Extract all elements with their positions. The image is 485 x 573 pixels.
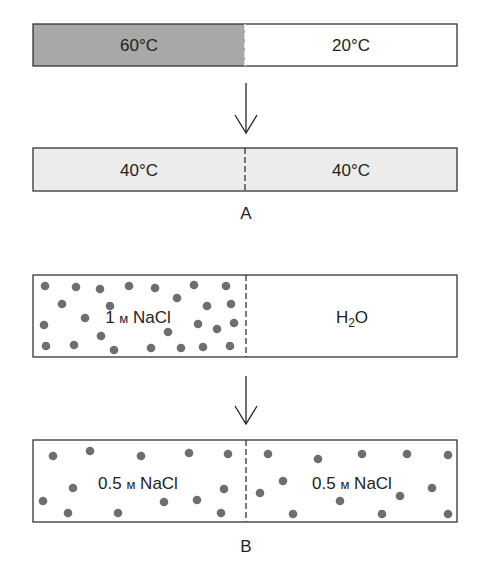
solute-particle — [256, 489, 265, 498]
solute-particle — [185, 449, 194, 458]
temp-left-after: 40°C — [120, 161, 158, 180]
solute-particle — [81, 314, 90, 323]
arrow-down-icon — [235, 83, 257, 133]
solute-particle — [217, 509, 226, 518]
solute-particle — [336, 497, 345, 506]
solute-particle — [279, 477, 288, 486]
solute-particle — [160, 498, 169, 507]
solute-particle — [193, 496, 202, 505]
solute-particle — [199, 343, 208, 352]
concentration-right-after: 0.5 м NaCl — [312, 474, 392, 493]
solute-particle — [39, 497, 48, 506]
solute-particle — [96, 285, 105, 294]
arrow-down-icon — [235, 376, 257, 424]
solute-particle — [72, 283, 81, 292]
temp-left-before: 60°C — [120, 36, 158, 55]
solute-particle — [151, 284, 160, 293]
solute-particle — [147, 344, 156, 353]
temp-right-before: 20°C — [332, 36, 370, 55]
solute-particle — [58, 300, 67, 309]
solute-particle — [64, 509, 73, 518]
concentration-left-before: 1 м NaCl — [105, 308, 171, 327]
solute-particle — [203, 302, 212, 311]
panel-label-a: A — [240, 204, 252, 223]
solute-particle — [177, 344, 186, 353]
solute-particle — [396, 492, 405, 501]
solute-particle — [227, 300, 236, 309]
solute-particle — [42, 342, 51, 351]
solute-particle — [224, 450, 233, 459]
solute-particle — [378, 510, 387, 519]
solute-particle — [444, 510, 453, 519]
container-outline — [33, 440, 457, 522]
solute-particle — [226, 342, 235, 351]
solute-particle — [69, 484, 78, 493]
solute-particle — [220, 485, 229, 494]
solute-particle — [222, 282, 231, 291]
solute-particle — [264, 450, 273, 459]
solute-particle — [190, 281, 199, 290]
solute-particle — [110, 346, 119, 355]
solute-particle — [164, 328, 173, 337]
solute-particle — [314, 455, 323, 464]
panel-a-before: 60°C 20°C — [33, 24, 457, 66]
solute-particle — [173, 294, 182, 303]
diffusion-diagram: 60°C 20°C 40°C 40°C A 1 м NaCl H2O 0.5 м… — [0, 0, 485, 573]
solute-particle — [230, 319, 239, 328]
solute-particle — [403, 450, 412, 459]
solute-particle — [114, 509, 123, 518]
temp-right-after: 40°C — [332, 161, 370, 180]
panel-b-after: 0.5 м NaCl 0.5 м NaCl — [33, 440, 457, 522]
solute-particle — [289, 510, 298, 519]
panel-a-after: 40°C 40°C — [33, 148, 457, 191]
solute-particle — [194, 320, 203, 329]
panel-b-before: 1 м NaCl H2O — [33, 275, 457, 357]
solute-particle — [137, 452, 146, 461]
solute-particle — [444, 451, 453, 460]
concentration-left-after: 0.5 м NaCl — [98, 474, 178, 493]
solute-particle — [213, 325, 222, 334]
solute-particle — [86, 447, 95, 456]
solute-particle — [97, 332, 106, 341]
solute-particle — [358, 450, 367, 459]
solute-particle — [125, 282, 134, 291]
solute-particle — [49, 452, 58, 461]
solute-particle — [41, 282, 50, 291]
solute-particle — [70, 341, 79, 350]
solute-particle — [428, 484, 437, 493]
panel-label-b: B — [240, 537, 251, 556]
solute-particle — [40, 321, 49, 330]
